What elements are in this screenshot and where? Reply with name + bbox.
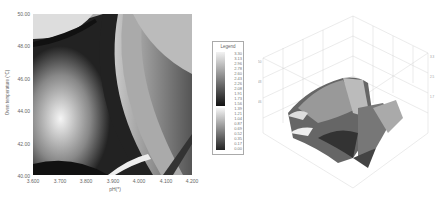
y-axis-label: Oven temperature (°C)	[5, 58, 10, 128]
legend-values: 3.30 3.13 2.96 2.78 2.60 2.43 2.26 2.08 …	[227, 51, 242, 151]
svg-text:46: 46	[258, 100, 262, 104]
surface-3d-plot: 504846 3.32.51.7	[258, 8, 443, 198]
x-tick: 3.800	[73, 178, 99, 184]
x-tick: 4.000	[126, 178, 152, 184]
svg-text:3.3: 3.3	[430, 55, 435, 59]
legend: Legend 3.30 3.13 2.96 2.78 2.60 2.43 2.2…	[212, 41, 244, 155]
surface-3d-graphic: 504846 3.32.51.7	[258, 8, 443, 198]
svg-text:2.5: 2.5	[430, 75, 435, 79]
x-tick: 3.600	[20, 178, 46, 184]
x-axis-label: pH(*)	[100, 186, 130, 192]
contour-plot-area	[33, 14, 192, 175]
legend-title: Legend	[213, 44, 243, 49]
x-tick: 3.900	[100, 178, 126, 184]
y-tick: 48.00	[2, 43, 30, 49]
x-tick: 3.700	[47, 178, 73, 184]
svg-text:1.7: 1.7	[430, 95, 435, 99]
y-tick: 50.00	[2, 11, 30, 17]
x-tick: 4.200	[179, 178, 205, 184]
svg-text:50: 50	[258, 60, 262, 64]
x-tick: 4.100	[153, 178, 179, 184]
contour-surface	[33, 14, 192, 175]
svg-text:48: 48	[258, 80, 262, 84]
legend-color-bar-lower	[216, 108, 225, 150]
legend-color-bar-upper	[216, 52, 225, 106]
y-tick: 42.00	[2, 141, 30, 147]
